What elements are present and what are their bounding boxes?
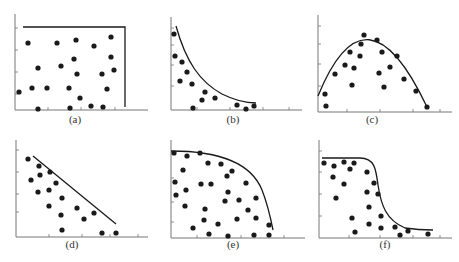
panel-f: (f) <box>319 140 452 251</box>
data-point <box>375 191 380 196</box>
data-point <box>59 227 64 232</box>
data-point <box>197 150 202 155</box>
panel-label: (c) <box>366 113 379 126</box>
data-point <box>66 85 71 90</box>
data-point <box>104 86 109 91</box>
data-point <box>341 159 346 164</box>
data-point <box>236 197 241 202</box>
panel-e: (e) <box>171 140 305 251</box>
data-point <box>35 189 40 194</box>
data-point <box>381 84 386 89</box>
data-point <box>378 213 383 218</box>
data-point <box>177 78 182 83</box>
data-point <box>234 102 239 107</box>
panel-label: (d) <box>66 238 79 251</box>
data-point <box>224 173 229 178</box>
data-point <box>206 231 211 236</box>
panel-label: (b) <box>227 113 240 126</box>
data-point <box>351 160 356 165</box>
data-point <box>330 174 335 179</box>
data-point <box>358 41 363 46</box>
data-point <box>113 230 118 235</box>
data-point <box>251 232 256 237</box>
data-point <box>371 180 376 185</box>
data-point <box>357 53 362 58</box>
data-point <box>333 195 338 200</box>
data-point <box>190 225 195 230</box>
data-point <box>208 181 213 186</box>
data-point <box>172 179 177 184</box>
data-point <box>184 69 189 74</box>
data-point <box>171 150 176 155</box>
data-point <box>36 163 41 168</box>
data-point <box>99 71 104 76</box>
data-point <box>378 225 383 230</box>
figure-canvas: (a)(b)(c)(d)(e)(f) <box>0 0 459 262</box>
data-point <box>352 229 357 234</box>
data-point <box>212 95 217 100</box>
data-point <box>189 81 194 86</box>
data-point <box>190 105 195 110</box>
data-point <box>53 180 58 185</box>
data-point <box>394 53 399 58</box>
data-point <box>405 228 410 233</box>
data-point <box>173 192 178 197</box>
data-point <box>245 207 250 212</box>
data-point <box>59 195 64 200</box>
data-point <box>342 62 347 67</box>
data-point <box>54 40 59 45</box>
data-point <box>218 161 223 166</box>
data-point <box>108 54 113 59</box>
data-point <box>366 204 371 209</box>
data-point <box>425 231 430 236</box>
data-point <box>99 230 104 235</box>
panel-b: (b) <box>171 17 302 126</box>
data-point <box>202 89 207 94</box>
data-point <box>366 221 371 226</box>
data-point <box>29 85 34 90</box>
frontier-line <box>33 156 116 224</box>
data-point <box>184 153 189 158</box>
data-point <box>202 206 207 211</box>
data-point <box>332 71 337 76</box>
data-point <box>351 65 356 70</box>
data-point <box>100 104 105 109</box>
data-point <box>74 71 79 76</box>
data-point <box>374 37 379 42</box>
data-point <box>229 168 234 173</box>
data-point <box>266 232 271 237</box>
data-point <box>199 97 204 102</box>
data-point <box>73 37 78 42</box>
data-point <box>16 89 21 94</box>
panel-label: (a) <box>69 113 82 126</box>
data-point <box>243 106 248 111</box>
data-point <box>253 215 258 220</box>
panel-label: (e) <box>227 238 240 251</box>
data-point <box>179 59 184 64</box>
data-point <box>364 169 369 174</box>
data-point <box>201 217 206 222</box>
data-point <box>253 195 258 200</box>
data-point <box>46 187 51 192</box>
data-point <box>172 53 177 58</box>
data-point <box>91 43 96 48</box>
data-point <box>234 216 239 221</box>
data-point <box>111 67 116 72</box>
data-point <box>364 189 369 194</box>
data-point <box>25 40 30 45</box>
data-point <box>205 160 210 165</box>
data-point <box>180 167 185 172</box>
data-point <box>171 31 176 36</box>
data-point <box>44 85 49 90</box>
data-point <box>347 49 352 54</box>
data-point <box>74 205 79 210</box>
data-point <box>225 189 230 194</box>
data-point <box>67 105 72 110</box>
data-point <box>47 169 52 174</box>
data-point <box>392 224 397 229</box>
frontier-curve <box>176 26 256 103</box>
data-point <box>58 63 63 68</box>
data-point <box>266 222 271 227</box>
data-point <box>376 70 381 75</box>
data-point <box>397 232 402 237</box>
